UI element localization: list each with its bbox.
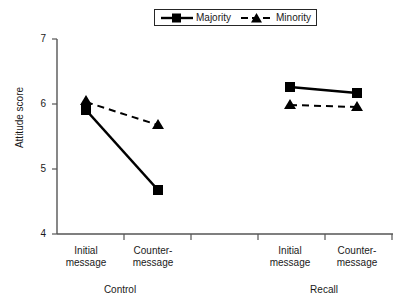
x-tick-label-line1: Counter- (318, 245, 396, 257)
x-tick-label-control-counter: Counter- message (114, 245, 192, 269)
x-tick-label-line2: message (114, 257, 192, 269)
legend-minority-sample-icon (240, 12, 274, 24)
series-majority-line-recall (290, 87, 357, 93)
group-label-recall: Recall (264, 284, 384, 295)
chart-legend: Majority Minority (154, 9, 317, 26)
marker-majority-control-counter (153, 185, 163, 195)
y-tick-label-5: 5 (30, 164, 46, 174)
legend-label-minority: Minority (276, 13, 311, 23)
series-minority-line-recall (290, 105, 357, 107)
y-tick-label-7: 7 (30, 34, 46, 44)
group-label-control: Control (60, 284, 180, 295)
legend-label-majority: Majority (196, 13, 231, 23)
marker-majority-recall-counter (352, 88, 362, 98)
marker-minority-recall-initial (284, 99, 296, 109)
x-tick-label-line2: message (318, 257, 396, 269)
legend-majority-sample-icon (160, 12, 194, 24)
x-tick-label-line1: Counter- (114, 245, 192, 257)
x-tick-label-recall-counter: Counter- message (318, 245, 396, 269)
marker-minority-control-initial (80, 95, 92, 105)
marker-minority-control-counter (152, 119, 164, 129)
marker-majority-recall-initial (285, 82, 295, 92)
y-axis-ticks (52, 39, 57, 234)
legend-item-minority: Minority (240, 12, 311, 24)
series-minority-markers (80, 95, 363, 129)
legend-item-majority: Majority (160, 12, 231, 24)
x-axis-ticks (124, 234, 392, 240)
y-tick-label-4: 4 (30, 229, 46, 239)
y-tick-label-6: 6 (30, 99, 46, 109)
marker-majority-control-initial (81, 105, 91, 115)
y-axis-title: Attitude score (14, 78, 25, 158)
chart-figure: Majority Minority Attitude score 7 6 5 4… (0, 0, 406, 308)
series-majority-markers (81, 82, 362, 195)
